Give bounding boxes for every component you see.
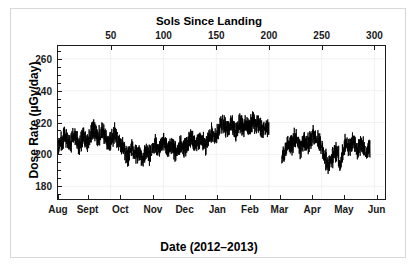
y-tick-label-240: 240 <box>27 85 52 96</box>
y-minor-tick-265 <box>58 51 61 52</box>
bottom-tick-jun <box>377 195 378 199</box>
top-tick-100 <box>163 46 164 50</box>
month-tick-label-dec: Dec <box>175 204 193 215</box>
top-tick-200 <box>269 46 270 50</box>
y-minor-tick-175 <box>58 194 61 195</box>
figure-panel: Sols Since Landing Dose Rate (µGy/day) D… <box>10 8 406 258</box>
month-tick-label-mar: Mar <box>271 204 289 215</box>
y-minor-tick-230 <box>58 107 61 108</box>
top-tick-150 <box>216 46 217 50</box>
y-minor-tick-185 <box>58 178 61 179</box>
y-minor-tick-210 <box>58 138 61 139</box>
y-tick-240 <box>58 91 62 92</box>
chart-stage: Sols Since Landing Dose Rate (µGy/day) D… <box>11 9 407 259</box>
dose-rate-trace <box>58 111 370 173</box>
top-tick-label-200: 200 <box>261 30 278 41</box>
data-trace-svg <box>58 46 385 199</box>
y-tick-180 <box>58 186 62 187</box>
month-tick-label-sept: Sept <box>77 204 99 215</box>
top-tick-label-250: 250 <box>313 30 330 41</box>
y-minor-tick-190 <box>58 170 61 171</box>
y-tick-200 <box>58 154 62 155</box>
month-tick-label-aug: Aug <box>48 204 67 215</box>
y-minor-tick-215 <box>58 130 61 131</box>
bottom-tick-aug <box>58 195 59 199</box>
month-tick-label-may: May <box>334 204 353 215</box>
month-tick-label-jan: Jan <box>209 204 226 215</box>
bottom-tick-dec <box>185 195 186 199</box>
bottom-tick-may <box>344 195 345 199</box>
bottom-tick-sept <box>88 195 89 199</box>
y-minor-tick-255 <box>58 67 61 68</box>
top-tick-50 <box>111 46 112 50</box>
bottom-tick-oct <box>120 195 121 199</box>
top-tick-label-100: 100 <box>155 30 172 41</box>
y-tick-260 <box>58 59 62 60</box>
bottom-tick-nov <box>153 195 154 199</box>
top-tick-label-50: 50 <box>105 30 116 41</box>
bottom-tick-feb <box>250 195 251 199</box>
month-tick-label-feb: Feb <box>241 204 259 215</box>
y-tick-label-200: 200 <box>27 149 52 160</box>
top-tick-label-300: 300 <box>366 30 383 41</box>
bottom-tick-jan <box>217 195 218 199</box>
top-axis-title: Sols Since Landing <box>11 15 407 27</box>
month-tick-label-jun: Jun <box>368 204 386 215</box>
month-tick-label-nov: Nov <box>143 204 162 215</box>
x-axis-title: Date (2012–2013) <box>11 240 407 254</box>
bottom-tick-mar <box>280 195 281 199</box>
top-tick-250 <box>322 46 323 50</box>
top-tick-label-150: 150 <box>208 30 225 41</box>
y-tick-label-260: 260 <box>27 53 52 64</box>
y-tick-label-220: 220 <box>27 117 52 128</box>
top-tick-300 <box>374 46 375 50</box>
y-minor-tick-245 <box>58 83 61 84</box>
y-tick-label-180: 180 <box>27 181 52 192</box>
bottom-tick-apr <box>312 195 313 199</box>
y-minor-tick-205 <box>58 146 61 147</box>
y-minor-tick-195 <box>58 162 61 163</box>
y-minor-tick-235 <box>58 99 61 100</box>
y-minor-tick-225 <box>58 115 61 116</box>
y-tick-220 <box>58 123 62 124</box>
month-tick-label-apr: Apr <box>304 204 321 215</box>
month-tick-label-oct: Oct <box>112 204 129 215</box>
plot-area <box>57 45 386 200</box>
y-minor-tick-250 <box>58 75 61 76</box>
